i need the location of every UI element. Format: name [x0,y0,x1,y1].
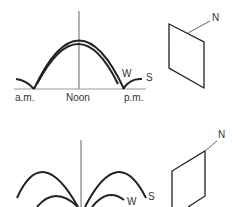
solar-diagram: W S a.m. Noon p.m. N W S N [0,0,232,207]
bottom-label-n: N [218,129,225,140]
bottom-arch-inner-right-w [92,195,124,207]
bottom-arch-outer-left [17,172,78,207]
top-panel-shape [169,24,204,88]
top-chart: W S a.m. Noon p.m. [14,11,153,103]
bottom-panel-normal [205,141,217,151]
bottom-label-s: S [148,191,155,202]
top-panel: N [169,12,219,88]
bottom-chart: W S [17,140,155,207]
label-pm: p.m. [124,92,143,103]
bottom-panel-shape [172,151,205,207]
label-am: a.m. [15,92,34,103]
top-arch-inner-w [37,44,118,84]
top-pm-curve-s [123,79,142,89]
top-panel-normal [188,21,210,33]
top-label-n: N [212,12,219,23]
label-noon: Noon [66,92,90,103]
top-label-s: S [146,72,153,83]
bottom-label-w: W [127,196,137,207]
bottom-panel: N [172,129,225,207]
bottom-arch-outer-right-s [85,172,146,207]
top-label-w: W [122,68,132,79]
top-am-curve [16,79,34,89]
